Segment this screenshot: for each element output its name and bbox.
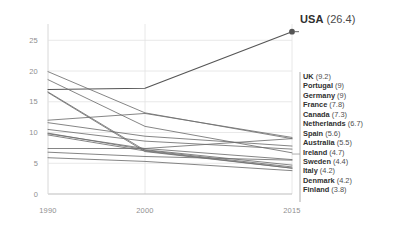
legend-item-value: (5.5) xyxy=(335,138,352,147)
legend-item-name: UK xyxy=(303,72,314,81)
legend-item-sweden: Sweden (4.4) xyxy=(303,157,394,166)
legend-item-name: Ireland xyxy=(303,148,327,157)
chart-legend: UK (9.2)Portugal (9)Germany (9)France (7… xyxy=(303,72,394,195)
legend-item-value: (4.4) xyxy=(331,157,348,166)
legend-item-name: Netherlands xyxy=(303,119,346,128)
x-tick-2000: 2000 xyxy=(125,206,165,215)
legend-item-ireland: Ireland (4.7) xyxy=(303,148,394,157)
series-lines xyxy=(48,32,292,171)
legend-item-canada: Canada (7.3) xyxy=(303,110,394,119)
legend-item-name: France xyxy=(303,100,327,109)
usa-callout-label: USA (26.4) xyxy=(300,14,355,25)
x-tick-2015: 2015 xyxy=(272,206,312,215)
legend-item-germany: Germany (9) xyxy=(303,91,394,100)
legend-item-netherlands: Netherlands (6.7) xyxy=(303,119,394,128)
usa-callout-value: (26.4) xyxy=(327,13,356,25)
legend-item-value: (6.7) xyxy=(346,119,363,128)
legend-item-value: (9.2) xyxy=(314,72,331,81)
legend-item-name: Canada xyxy=(303,110,330,119)
usa-callout-name: USA xyxy=(300,13,324,25)
legend-item-portugal: Portugal (9) xyxy=(303,81,394,90)
y-tick-0: 0 xyxy=(16,190,38,199)
legend-item-value: (9) xyxy=(333,81,344,90)
legend-item-value: (5.6) xyxy=(323,129,340,138)
legend-item-name: Italy xyxy=(303,166,318,175)
line-chart-figure: 0510152025 199020002015 USA (26.4) UK (9… xyxy=(0,0,394,230)
series-line-netherlands xyxy=(48,80,292,153)
y-tick-10: 10 xyxy=(16,128,38,137)
y-tick-20: 20 xyxy=(16,67,38,76)
legend-item-value: (4.7) xyxy=(327,148,344,157)
legend-item-italy: Italy (4.2) xyxy=(303,166,394,175)
legend-item-spain: Spain (5.6) xyxy=(303,129,394,138)
legend-item-value: (9) xyxy=(335,91,346,100)
legend-item-value: (4.2) xyxy=(318,166,335,175)
x-tick-1990: 1990 xyxy=(28,206,68,215)
legend-item-name: Australia xyxy=(303,138,335,147)
legend-item-denmark: Denmark (4.2) xyxy=(303,176,394,185)
usa-endpoint-dot xyxy=(289,29,295,35)
legend-item-france: France (7.8) xyxy=(303,100,394,109)
series-line-sweden xyxy=(48,92,292,167)
legend-item-value: (7.3) xyxy=(330,110,347,119)
y-tick-15: 15 xyxy=(16,97,38,106)
legend-item-name: Germany xyxy=(303,91,335,100)
legend-connector xyxy=(292,72,300,202)
legend-item-uk: UK (9.2) xyxy=(303,72,394,81)
legend-item-finland: Finland (3.8) xyxy=(303,185,394,194)
y-tick-25: 25 xyxy=(16,36,38,45)
legend-item-name: Portugal xyxy=(303,81,333,90)
legend-item-value: (7.8) xyxy=(327,100,344,109)
legend-item-name: Denmark xyxy=(303,176,335,185)
legend-item-name: Spain xyxy=(303,129,323,138)
series-line-germany xyxy=(48,72,292,139)
legend-item-name: Sweden xyxy=(303,157,331,166)
legend-item-value: (3.8) xyxy=(329,185,346,194)
legend-item-value: (4.2) xyxy=(335,176,352,185)
endpoint-markers xyxy=(289,29,299,35)
legend-item-name: Finland xyxy=(303,185,329,194)
legend-item-australia: Australia (5.5) xyxy=(303,138,394,147)
y-tick-5: 5 xyxy=(16,159,38,168)
